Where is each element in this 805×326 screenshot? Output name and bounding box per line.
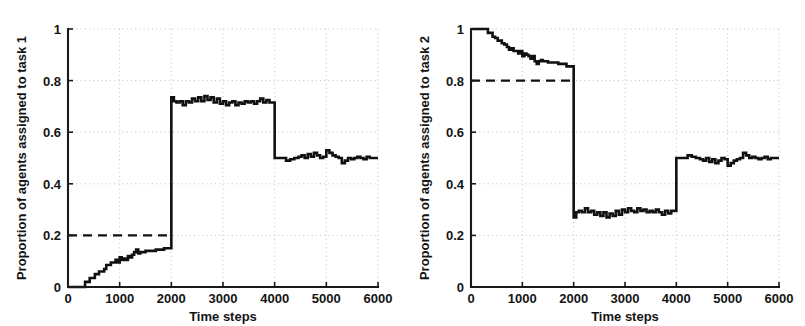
x-tick-label: 2000 bbox=[157, 291, 186, 306]
y-tick-label: 0.8 bbox=[43, 74, 61, 89]
x-tick-label: 0 bbox=[64, 291, 71, 306]
gridlines bbox=[68, 29, 378, 287]
x-tick-label: 6000 bbox=[765, 291, 794, 306]
x-tick-label: 3000 bbox=[611, 291, 640, 306]
y-axis-label: Proportion of agents assigned to task 2 bbox=[417, 36, 432, 280]
chart-svg-task-2: 010002000300040005000600000.20.40.60.81T… bbox=[402, 0, 805, 326]
x-tick-label: 5000 bbox=[713, 291, 742, 306]
y-tick-label: 0 bbox=[457, 280, 464, 295]
gridlines bbox=[471, 29, 779, 287]
y-tick-label: 0.6 bbox=[43, 125, 61, 140]
y-tick-label: 0.2 bbox=[43, 228, 61, 243]
x-tick-label: 5000 bbox=[312, 291, 341, 306]
y-tick-label: 1 bbox=[457, 22, 464, 37]
chart-panel-task-1: 010002000300040005000600000.20.40.60.81T… bbox=[0, 0, 402, 326]
x-tick-label: 4000 bbox=[662, 291, 691, 306]
x-axis-label: Time steps bbox=[591, 309, 659, 324]
y-tick-label: 0.2 bbox=[446, 228, 464, 243]
proportion-assigned-task-1-line bbox=[68, 96, 378, 287]
y-tick-label: 0 bbox=[54, 280, 61, 295]
y-tick-label: 0.4 bbox=[43, 177, 62, 192]
chart-svg-task-1: 010002000300040005000600000.20.40.60.81T… bbox=[0, 0, 402, 326]
y-tick-label: 0.6 bbox=[446, 125, 464, 140]
x-tick-label: 4000 bbox=[260, 291, 289, 306]
x-tick-label: 3000 bbox=[209, 291, 238, 306]
figure-container: 010002000300040005000600000.20.40.60.81T… bbox=[0, 0, 805, 326]
x-tick-label: 1000 bbox=[105, 291, 134, 306]
y-tick-label: 0.8 bbox=[446, 74, 464, 89]
x-tick-label: 6000 bbox=[364, 291, 393, 306]
chart-panel-task-2: 010002000300040005000600000.20.40.60.81T… bbox=[402, 0, 804, 326]
y-axis-label: Proportion of agents assigned to task 1 bbox=[14, 36, 29, 280]
y-tick-label: 1 bbox=[54, 22, 61, 37]
y-tick-label: 0.4 bbox=[446, 177, 465, 192]
x-tick-label: 2000 bbox=[559, 291, 588, 306]
x-tick-label: 0 bbox=[467, 291, 474, 306]
x-axis-label: Time steps bbox=[189, 309, 257, 324]
x-tick-label: 1000 bbox=[508, 291, 537, 306]
